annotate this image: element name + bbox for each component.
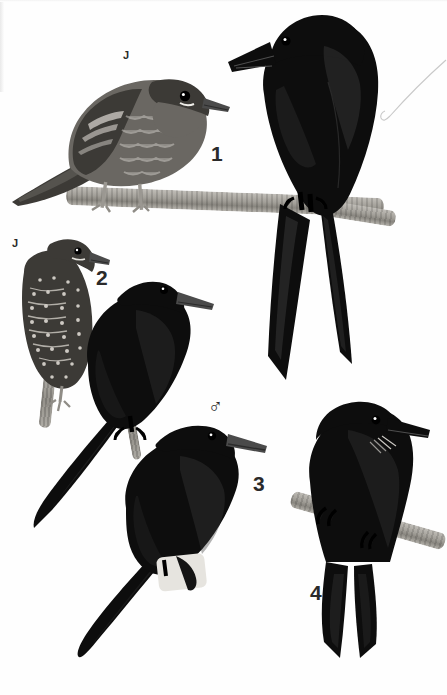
illustration-plate: J 1 J 2 ♂ 3 4 bbox=[0, 0, 447, 695]
label-number-1: 1 bbox=[211, 143, 223, 164]
label-number-4: 4 bbox=[310, 582, 322, 603]
label-number-3: 3 bbox=[253, 473, 265, 494]
figure-3-adult-male bbox=[68, 410, 268, 665]
figure-4-adult bbox=[282, 396, 432, 666]
figure-1-juvenile bbox=[8, 42, 232, 207]
figure-1-adult bbox=[224, 8, 399, 380]
label-number-2: 2 bbox=[96, 267, 108, 288]
label-juvenile-2: J bbox=[12, 238, 18, 249]
label-juvenile-1: J bbox=[123, 50, 129, 61]
scan-edge-top bbox=[0, 0, 447, 2]
label-male-symbol: ♂ bbox=[208, 396, 223, 416]
scan-edge-left bbox=[0, 0, 4, 92]
